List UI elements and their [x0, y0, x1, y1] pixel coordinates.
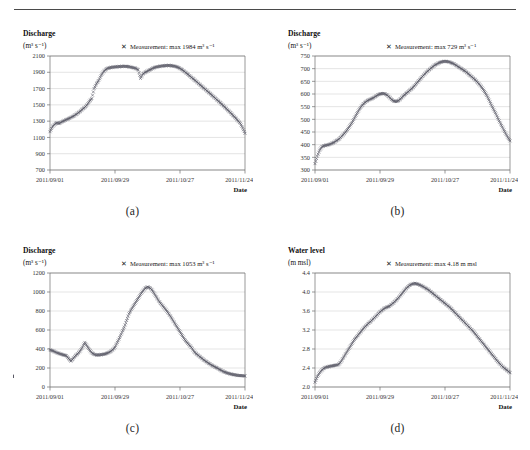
x-axis-label: Date	[233, 186, 247, 193]
figure-panel-grid: Discharge(m³ s⁻¹)✕Measurement: max 1984 …	[0, 16, 530, 450]
x-tick-label: 2011/11/24	[490, 176, 518, 183]
y-tick-label: 600	[35, 326, 44, 333]
y-tick-label: 1900	[32, 68, 45, 75]
y-tick-label: 1000	[32, 288, 45, 295]
chart-a: Discharge(m³ s⁻¹)✕Measurement: max 1984 …	[13, 22, 253, 204]
y-axis-unit: (m³ s⁻¹)	[23, 42, 47, 50]
x-tick-label: 2011/10/27	[431, 393, 459, 400]
y-tick-label: 200	[35, 364, 44, 371]
chart-c-container: Discharge(m³ s⁻¹)✕Measurement: max 1053 …	[13, 239, 253, 421]
y-axis-unit: (m³ s⁻¹)	[288, 42, 312, 50]
figure-panel-d: Water level(m msl)✕Measurement: max 4.18…	[265, 233, 530, 450]
x-tick-label: 2011/09/01	[301, 393, 329, 400]
y-axis-title: Discharge	[23, 29, 56, 38]
y-tick-label: 1100	[32, 134, 44, 141]
x-tick-label: 2011/09/29	[101, 176, 129, 183]
y-axis-unit: (m msl)	[288, 259, 311, 267]
caption-a: (a)	[126, 205, 139, 217]
chart-c: Discharge(m³ s⁻¹)✕Measurement: max 1053 …	[13, 239, 253, 421]
y-tick-label: 400	[35, 345, 44, 352]
chart-a-container: Discharge(m³ s⁻¹)✕Measurement: max 1984 …	[13, 22, 253, 204]
data-series-measurement	[313, 60, 511, 165]
y-tick-label: 2.4	[302, 364, 311, 371]
y-tick-label: 2.0	[302, 383, 310, 390]
legend-label: Measurement: max 729 m³ s⁻¹	[395, 43, 476, 50]
y-tick-label: 300	[300, 166, 309, 173]
x-tick-label: 2011/09/01	[301, 176, 329, 183]
caption-d: (d)	[390, 422, 404, 434]
x-axis-label: Date	[233, 403, 247, 410]
header-rule	[14, 9, 516, 10]
x-tick-label: 2011/10/27	[166, 393, 194, 400]
x-tick-label: 2011/11/24	[225, 176, 253, 183]
x-tick-label: 2011/09/29	[101, 393, 129, 400]
y-tick-label: 2100	[32, 52, 45, 59]
y-axis-title: Discharge	[23, 246, 56, 255]
x-tick-label: 2011/11/24	[490, 393, 518, 400]
y-tick-label: 350	[300, 154, 309, 161]
caption-c: (c)	[126, 422, 139, 434]
figure-panel-c: Discharge(m³ s⁻¹)✕Measurement: max 1053 …	[0, 233, 265, 450]
legend-marker-icon: ✕	[386, 43, 392, 50]
legend-marker-icon: ✕	[386, 260, 392, 267]
legend-label: Measurement: max 4.18 m msl	[395, 260, 477, 267]
x-axis-label: Date	[498, 403, 512, 410]
y-tick-label: 550	[300, 103, 309, 110]
y-tick-label: 4.0	[302, 288, 310, 295]
y-tick-label: 4.4	[302, 269, 311, 276]
y-tick-label: 0	[41, 383, 44, 390]
chart-d: Water level(m msl)✕Measurement: max 4.18…	[278, 239, 518, 421]
x-tick-label: 2011/09/29	[366, 176, 394, 183]
x-tick-label: 2011/10/27	[431, 176, 459, 183]
x-tick-label: 2011/10/27	[166, 176, 194, 183]
y-tick-label: 400	[300, 141, 309, 148]
chart-b-container: Discharge(m³ s⁻¹)✕Measurement: max 729 m…	[278, 22, 518, 204]
legend-marker-icon: ✕	[121, 260, 127, 267]
y-tick-label: 650	[300, 78, 309, 85]
y-axis-unit: (m³ s⁻¹)	[23, 259, 47, 267]
chart-b: Discharge(m³ s⁻¹)✕Measurement: max 729 m…	[278, 22, 518, 204]
caption-b: (b)	[390, 205, 404, 217]
y-tick-label: 1700	[32, 85, 45, 92]
legend: ✕Measurement: max 1984 m³ s⁻¹	[121, 43, 215, 50]
x-tick-label: 2011/09/01	[36, 393, 64, 400]
y-tick-label: 700	[300, 65, 309, 72]
y-tick-label: 600	[300, 90, 309, 97]
y-tick-label: 1500	[32, 101, 45, 108]
legend: ✕Measurement: max 1053 m³ s⁻¹	[121, 260, 215, 267]
legend-label: Measurement: max 1053 m³ s⁻¹	[130, 260, 215, 267]
figure-panel-a: Discharge(m³ s⁻¹)✕Measurement: max 1984 …	[0, 16, 265, 233]
x-tick-label: 2011/09/01	[36, 176, 64, 183]
legend: ✕Measurement: max 4.18 m msl	[386, 260, 477, 267]
y-tick-label: 900	[35, 150, 44, 157]
legend-label: Measurement: max 1984 m³ s⁻¹	[130, 43, 215, 50]
y-tick-label: 1300	[32, 117, 45, 124]
x-tick-label: 2011/11/24	[225, 393, 253, 400]
data-series-measurement	[13, 286, 246, 378]
figure-panel-b: Discharge(m³ s⁻¹)✕Measurement: max 729 m…	[265, 16, 530, 233]
y-tick-label: 2.8	[302, 345, 310, 352]
y-axis-title: Water level	[288, 246, 325, 255]
x-axis-label: Date	[498, 186, 512, 193]
x-tick-label: 2011/09/29	[366, 393, 394, 400]
chart-d-container: Water level(m msl)✕Measurement: max 4.18…	[278, 239, 518, 421]
y-tick-label: 3.6	[302, 307, 310, 314]
legend: ✕Measurement: max 729 m³ s⁻¹	[386, 43, 476, 50]
y-tick-label: 750	[300, 52, 309, 59]
y-tick-label: 1200	[32, 269, 45, 276]
data-series-measurement	[48, 64, 246, 135]
y-tick-label: 450	[300, 128, 309, 135]
y-tick-label: 3.2	[302, 326, 310, 333]
y-tick-label: 500	[300, 116, 309, 123]
y-axis-title: Discharge	[288, 29, 321, 38]
y-tick-label: 800	[35, 307, 44, 314]
data-series-measurement	[313, 282, 511, 384]
y-tick-label: 700	[35, 166, 44, 173]
legend-marker-icon: ✕	[121, 43, 127, 50]
